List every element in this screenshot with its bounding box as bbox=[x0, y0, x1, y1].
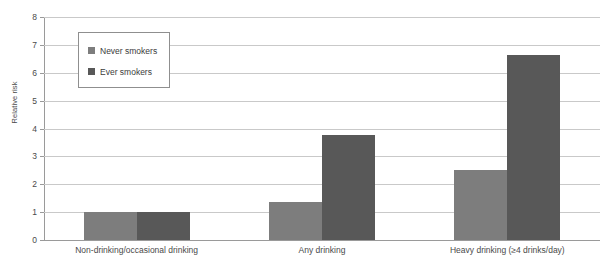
tick-mark-2 bbox=[40, 184, 44, 185]
bar-ever-smokers-2 bbox=[507, 55, 560, 240]
bar-never-smokers-0 bbox=[84, 212, 137, 240]
bar-chart-figure: Relative risk 012345678 Non-drinking/occ… bbox=[0, 0, 608, 271]
y-tick-label-5: 5 bbox=[32, 96, 37, 105]
bar-never-smokers-2 bbox=[454, 170, 507, 240]
y-tick-label-8: 8 bbox=[32, 13, 37, 22]
y-tick-label-7: 7 bbox=[32, 41, 37, 50]
y-tick-label-1: 1 bbox=[32, 208, 37, 217]
y-tick-label-2: 2 bbox=[32, 180, 37, 189]
category-label-1: Any drinking bbox=[299, 245, 346, 255]
legend-item-never-smokers: Never smokers bbox=[88, 40, 169, 61]
gridline-0 bbox=[44, 240, 600, 241]
tick-mark-3 bbox=[40, 156, 44, 157]
legend-item-ever-smokers: Ever smokers bbox=[88, 61, 169, 82]
chart-legend: Never smokers Ever smokers bbox=[78, 32, 170, 88]
bar-ever-smokers-0 bbox=[137, 212, 190, 240]
tick-mark-5 bbox=[40, 101, 44, 102]
y-tick-label-3: 3 bbox=[32, 152, 37, 161]
tick-mark-8 bbox=[40, 17, 44, 18]
legend-swatch-icon-never-smokers bbox=[88, 47, 95, 54]
legend-label-ever-smokers: Ever smokers bbox=[100, 67, 152, 77]
y-tick-label-0: 0 bbox=[32, 236, 37, 245]
category-label-0: Non-drinking/occasional drinking bbox=[75, 245, 198, 255]
gridline-8 bbox=[44, 17, 600, 18]
bar-ever-smokers-1 bbox=[322, 135, 375, 240]
tick-mark-6 bbox=[40, 73, 44, 74]
y-tick-label-4: 4 bbox=[32, 124, 37, 133]
legend-swatch-icon-ever-smokers bbox=[88, 68, 95, 75]
y-tick-label-6: 6 bbox=[32, 69, 37, 78]
tick-mark-0 bbox=[40, 240, 44, 241]
tick-mark-7 bbox=[40, 45, 44, 46]
bar-never-smokers-1 bbox=[269, 202, 322, 240]
category-label-2: Heavy drinking (≥4 drinks/day) bbox=[450, 245, 565, 255]
tick-mark-4 bbox=[40, 129, 44, 130]
legend-label-never-smokers: Never smokers bbox=[100, 46, 157, 56]
tick-mark-1 bbox=[40, 212, 44, 213]
y-axis-title: Relative risk bbox=[10, 63, 19, 143]
